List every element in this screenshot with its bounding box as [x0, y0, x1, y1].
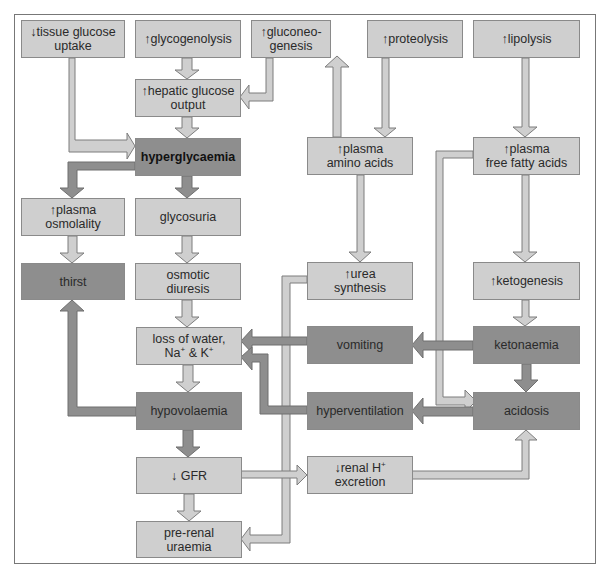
node-hyperglycaemia: hyperglycaemia: [135, 138, 241, 176]
node-hyperventilation: hyperventilation: [307, 392, 413, 430]
node-vomiting: vomiting: [307, 326, 413, 364]
arrow-hyperglycaemia-to-glycosuria: [175, 176, 199, 198]
node-lipolysis: ↑lipolysis: [473, 20, 580, 58]
arrow-hyperventilation-to-lossofwater: [241, 347, 307, 414]
node-plasma-free-fatty-acids: ↑plasmafree fatty acids: [473, 137, 580, 175]
node-glycosuria: glycosuria: [135, 198, 241, 236]
arrow-glycogenolysis-to-hepatic: [175, 58, 199, 79]
node-ketogenesis: ↑ketogenesis: [473, 262, 580, 300]
arrow-hepatic-to-hyperglycaemia: [175, 117, 199, 138]
node-hepatic-glucose-output: ↑hepatic glucoseoutput: [135, 79, 241, 117]
arrow-hyperglycaemia-to-osmolality: [60, 162, 135, 198]
node-thirst: thirst: [21, 263, 125, 300]
node-pre-renal-uraemia: pre-renaluraemia: [136, 521, 242, 558]
arrow-aminoacids-to-gluconeogenesis: [325, 56, 349, 137]
arrow-hypovolaemia-to-thirst: [60, 300, 136, 416]
arrow-hypovolaemia-to-gfr: [176, 430, 200, 457]
arrow-gluconeogenesis-to-hepatic: [240, 58, 273, 109]
arrow-ffa-to-ketogenesis: [513, 175, 537, 262]
node-loss-of-water: loss of water,Na+ & K+: [136, 327, 242, 365]
node-plasma-osmolality: ↑plasmaosmolality: [21, 198, 125, 236]
node-tissue-glucose-uptake: ↓tissue glucoseuptake: [21, 20, 125, 58]
arrow-gfr-to-renalh: [241, 465, 307, 485]
node-acidosis: acidosis: [473, 392, 580, 430]
arrow-aminoacids-to-urea: [349, 175, 371, 262]
node-hypovolaemia: hypovolaemia: [136, 392, 242, 430]
node-glycogenolysis: ↑glycogenolysis: [135, 20, 241, 58]
arrow-ketogenesis-to-ketonaemia: [513, 300, 537, 326]
node-urea-synthesis: ↑ureasynthesis: [307, 262, 413, 300]
node-proteolysis: ↑proteolysis: [367, 20, 463, 58]
node-ketonaemia: ketonaemia: [473, 326, 580, 364]
node-plasma-amino-acids: ↑plasmaamino acids: [307, 137, 413, 175]
arrow-proteolysis-to-aminoacids: [374, 58, 396, 137]
arrow-renalh-to-acidosis: [412, 430, 537, 479]
arrow-ketonaemia-to-acidosis: [514, 364, 538, 392]
arrow-tissue-to-hyperglycaemia: [69, 58, 135, 159]
node-gfr: ↓ GFR: [136, 457, 242, 494]
arrow-gfr-to-prerenal: [177, 494, 201, 521]
arrow-osmolality-to-thirst: [60, 236, 84, 263]
node-gluconeogenesis: ↑gluconeo-genesis: [251, 20, 331, 58]
arrow-lossofwater-to-hypovolaemia: [176, 365, 200, 392]
arrow-glycosuria-to-diuresis: [175, 236, 199, 263]
arrow-diuresis-to-lossofwater: [175, 300, 199, 327]
node-renal-h-excretion: ↓renal H+excretion: [307, 456, 413, 494]
arrow-ffa-to-acidosis: [436, 151, 476, 412]
node-osmotic-diuresis: osmoticdiuresis: [135, 263, 241, 300]
arrow-lipolysis-to-ffa: [513, 58, 537, 137]
